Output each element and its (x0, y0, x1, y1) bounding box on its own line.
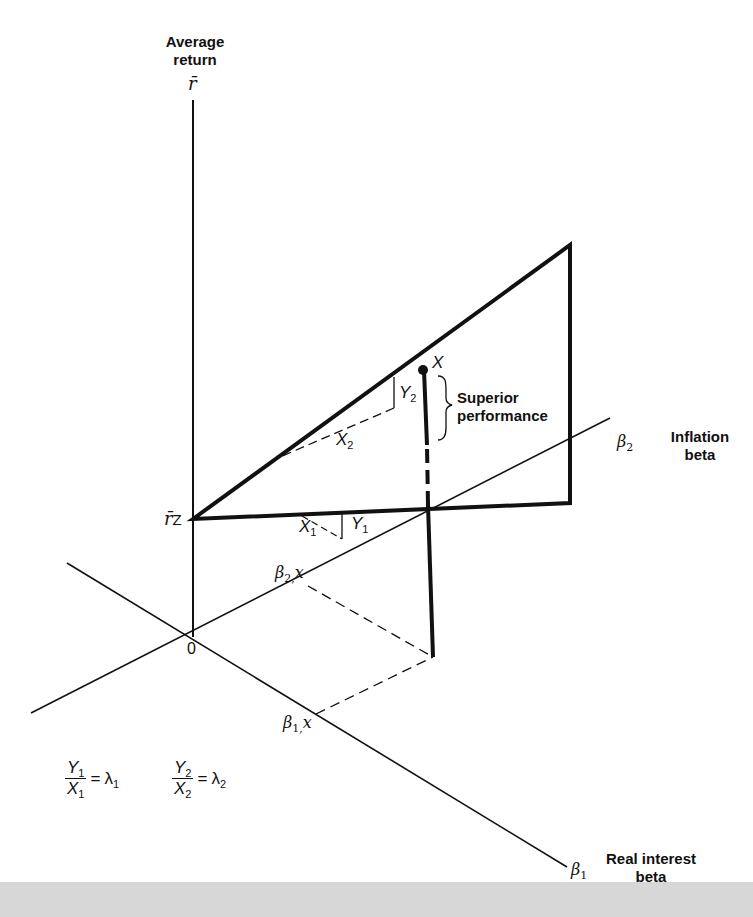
beta2x-symbol: β (275, 563, 284, 582)
equation-lambda1: Y1 X1 = λ1 (65, 758, 119, 799)
eq1-den: X (67, 779, 78, 798)
point-x-text: X (432, 353, 443, 372)
x2-letter: X (336, 430, 347, 449)
inflation-axis-title: Inflation beta (660, 428, 740, 464)
beta2x-subscript: 2, (284, 572, 295, 585)
eq2-den-sub: 2 (185, 788, 191, 800)
vertical-axis-title: Average return (150, 33, 240, 69)
eq1-den-sub: 1 (78, 788, 84, 800)
beta2x-label: β2,x (275, 563, 304, 582)
beta1-symbol: β (571, 860, 580, 879)
fraction-y1-x1: Y1 X1 (65, 758, 86, 799)
superior-performance-label: Superior performance (457, 389, 548, 425)
eq2-num-sub: 2 (185, 767, 191, 779)
vertical-axis-title-line2: return (150, 51, 240, 69)
real-interest-axis-title: Real interest beta (596, 850, 706, 886)
x2-subscript: 2 (347, 439, 353, 451)
r-bar-symbol: r̄ (188, 73, 197, 94)
real-interest-title-line1: Real interest (596, 850, 706, 868)
annotation-line1: Superior (457, 389, 548, 407)
point-x-label: X (432, 353, 443, 373)
point-x-dot (418, 365, 428, 375)
security-market-plane (193, 245, 570, 519)
real-interest-axis-symbol: β1 (571, 860, 587, 879)
point-x-stem-dashed (427, 445, 428, 505)
y1-letter: Y (351, 514, 362, 533)
y2-label: Y2 (399, 383, 416, 403)
y1-label: Y1 (351, 514, 368, 534)
beta1x-subscript: 1, (292, 722, 303, 735)
beta1-subscript: 1 (580, 869, 587, 882)
eq2-equals: = (197, 769, 207, 789)
x1-label: X1 (299, 517, 316, 537)
beta1x-suffix: x (303, 713, 312, 732)
footer-band (0, 882, 753, 917)
eq1-equals: = (90, 769, 100, 789)
inflation-title-line1: Inflation (660, 428, 740, 446)
equation-lambda2: Y2 X2 = λ2 (172, 758, 226, 799)
inflation-axis-line (31, 418, 610, 713)
eq1-num-sub: 1 (78, 767, 84, 779)
y2-letter: Y (399, 383, 410, 402)
eq2-num: Y (174, 758, 185, 777)
point-x-stem-upper (424, 370, 427, 445)
eq2-lambda-sub: 2 (220, 778, 226, 790)
eq1-lambda: λ (104, 769, 113, 788)
eq2-lambda: λ (211, 769, 220, 788)
origin-text: 0 (187, 640, 196, 657)
projection-dash-beta1 (316, 657, 433, 714)
projection-dash-beta2 (308, 586, 433, 657)
origin-label: 0 (187, 640, 196, 658)
beta2-subscript: 2 (626, 441, 633, 454)
y2-subscript: 2 (410, 392, 416, 404)
beta2-symbol: β (617, 432, 626, 451)
inflation-title-line2: beta (660, 446, 740, 464)
x2-label: X2 (336, 430, 353, 450)
eq1-lambda-sub: 1 (113, 778, 119, 790)
intercept-subscript: Z (173, 511, 182, 528)
vertical-axis-symbol: r̄ (188, 73, 197, 94)
fraction-y2-x2: Y2 X2 (172, 758, 193, 799)
real-interest-axis-line (67, 563, 567, 867)
point-x-stem-lower (428, 505, 433, 657)
beta1x-label: β1,x (283, 713, 312, 732)
inflation-axis-symbol: β2 (617, 432, 633, 451)
annotation-line2: performance (457, 407, 548, 425)
vertical-axis-title-line1: Average (150, 33, 240, 51)
intercept-symbol: r̄ (164, 508, 173, 529)
y1-subscript: 1 (362, 523, 368, 535)
beta2x-suffix: x (295, 563, 304, 582)
eq1-num: Y (67, 758, 78, 777)
x1-letter: X (299, 517, 310, 536)
x1-subscript: 1 (310, 526, 316, 538)
intercept-label: r̄Z (164, 508, 182, 529)
superior-performance-brace (438, 376, 452, 440)
beta1x-symbol: β (283, 713, 292, 732)
eq2-den: X (174, 779, 185, 798)
